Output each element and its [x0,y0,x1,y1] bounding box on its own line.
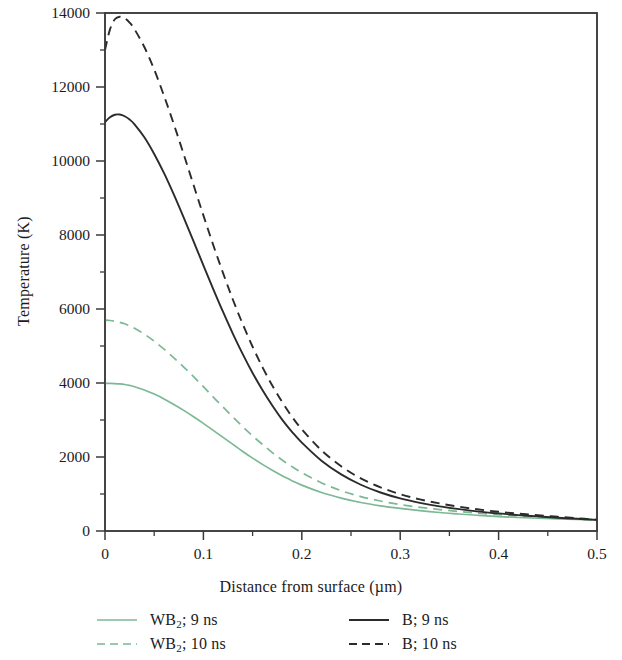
axes-frame [105,13,597,531]
legend-entry: WB2; 10 ns [96,632,226,656]
y-tick-label: 6000 [0,300,90,318]
series-line [105,383,597,520]
legend-label: WB2; 9 ns [150,611,218,629]
x-tick-label: 0 [101,545,109,563]
legend-label-subscript: 2 [176,618,182,630]
legend-label-tail: ; 10 ns [182,635,226,652]
legend-label-main: WB [150,611,176,628]
y-tick-label: 8000 [0,226,90,244]
chart-figure: 02000400060008000100001200014000 00.10.2… [0,0,622,660]
legend-label: B; 9 ns [402,611,449,629]
data-series-group [105,13,597,531]
legend-entry: B; 10 ns [348,632,457,656]
y-tick-label: 4000 [0,374,90,392]
axes-box-overlay [105,13,597,531]
y-tick-label: 2000 [0,448,90,466]
legend-label-tail: ; 9 ns [182,611,218,628]
chart-legend: WB2; 9 nsWB2; 10 nsB; 9 nsB; 10 ns [96,608,556,658]
x-axis-title: Distance from surface (µm) [0,578,622,596]
legend-line-swatch [96,638,138,650]
legend-label: WB2; 10 ns [150,635,226,653]
y-tick-label: 12000 [0,78,90,96]
legend-entry: WB2; 9 ns [96,608,218,632]
x-tick-label: 0.2 [292,545,311,563]
x-tick-label: 0.5 [587,545,606,563]
y-axis-title: Temperature (K) [15,171,33,371]
x-tick-label: 0.1 [194,545,213,563]
x-tick-label: 0.4 [489,545,508,563]
legend-label-subscript: 2 [176,642,182,654]
legend-label-main: WB [150,635,176,652]
axes-box [105,13,597,531]
legend-label-tail: ; 10 ns [413,635,457,652]
legend-label: B; 10 ns [402,635,457,653]
series-line [105,114,597,520]
axis-ticks [96,13,597,540]
y-tick-label: 0 [0,522,90,540]
y-tick-label: 14000 [0,4,90,22]
legend-entry: B; 9 ns [348,608,449,632]
legend-label-main: B [402,611,413,628]
series-line [105,320,597,520]
legend-label-tail: ; 9 ns [413,611,449,628]
legend-line-swatch [348,614,390,626]
series-line [105,17,597,520]
legend-line-swatch [348,638,390,650]
legend-label-main: B [402,635,413,652]
y-tick-label: 10000 [0,152,90,170]
legend-line-swatch [96,614,138,626]
x-tick-label: 0.3 [391,545,410,563]
